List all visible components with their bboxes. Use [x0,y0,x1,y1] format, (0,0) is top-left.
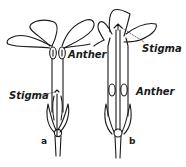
flower-b-anther-left [109,84,115,96]
flower-a-stigma-label: Stigma [9,91,49,101]
flower-b-petal-far-left [94,40,104,46]
flower-a [7,20,94,156]
flower-b-petal-left [98,22,112,40]
flower-b-sepal-right [122,104,131,134]
flower-a-sepal-inner-right [61,96,62,120]
flower-b [94,9,156,158]
flower-b-style [116,30,120,130]
flower-b-sepal-left [105,104,114,134]
flower-b-stigma-leader [122,28,144,42]
flower-b-stigma [114,24,122,30]
flower-b-anther-right [121,84,127,96]
flower-b-letter: b [129,137,135,146]
flower-a-anther-label: Anther [68,50,106,60]
flower-b-tube [108,38,128,116]
flower-b-stigma-label: Stigma [142,44,182,54]
flower-a-letter: a [41,137,47,146]
flower-a-sepal-left [47,104,56,132]
flower-b-anther-label: Anther [136,87,174,97]
flower-a-stigma [55,90,59,92]
flower-diagram [0,0,186,167]
flower-b-pedicel [115,136,121,158]
flower-a-sepal-inner-left [53,96,54,120]
flower-a-pedicel [55,136,61,156]
